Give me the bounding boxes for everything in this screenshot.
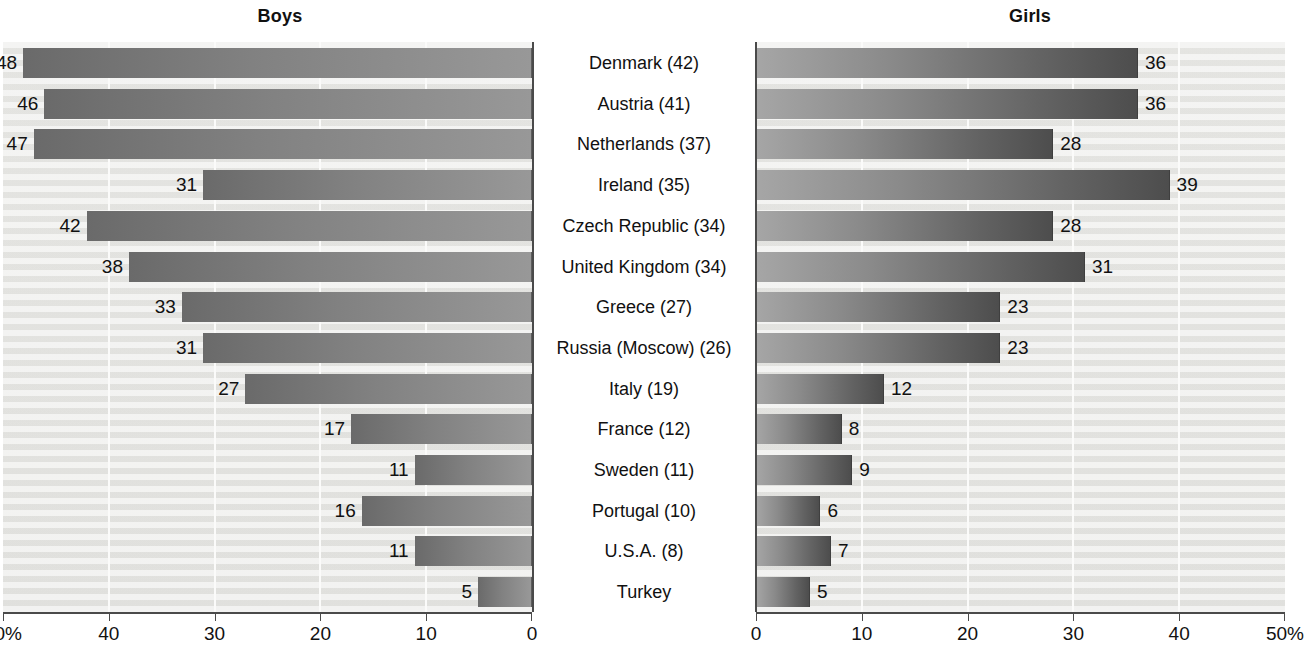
girls-tick-label-30: 30 <box>1063 623 1084 645</box>
category-label: France (12) <box>540 414 748 444</box>
girls-bar-value-label: 9 <box>859 455 870 485</box>
girls-tick-30 <box>1073 612 1074 621</box>
boys-plot-background <box>3 42 532 612</box>
category-label: Denmark (42) <box>540 48 748 78</box>
girls-bar <box>756 414 842 444</box>
boys-tick-label-0: 0 <box>527 623 538 645</box>
boys-bar <box>415 536 532 566</box>
boys-bar <box>415 455 532 485</box>
girls-bar-value-label: 6 <box>827 496 838 526</box>
category-label: Greece (27) <box>540 292 748 322</box>
girls-value-axis-line <box>755 42 757 612</box>
girls-bar <box>756 129 1053 159</box>
boys-bar <box>34 129 532 159</box>
category-label: Portugal (10) <box>540 496 748 526</box>
boys-tick-20 <box>320 612 321 621</box>
boys-tick-50 <box>3 612 4 621</box>
boys-bar-value-label: 42 <box>60 211 81 241</box>
category-label: Czech Republic (34) <box>540 211 748 241</box>
boys-bar <box>129 252 532 282</box>
girls-bar-value-label: 36 <box>1145 89 1166 119</box>
girls-bar-value-label: 31 <box>1092 252 1113 282</box>
girls-tick-label-40: 40 <box>1169 623 1190 645</box>
girls-bar <box>756 374 884 404</box>
boys-x-axis: 01020304050% <box>3 612 532 660</box>
boys-bar <box>44 89 532 119</box>
girls-tick-50 <box>1284 612 1285 621</box>
boys-panel-title: Boys <box>180 6 380 27</box>
boys-gridline-10 <box>425 42 427 612</box>
girls-bar-value-label: 39 <box>1177 170 1198 200</box>
girls-tick-label-0: 0 <box>751 623 762 645</box>
boys-bar-value-label: 27 <box>218 374 239 404</box>
girls-bar <box>756 292 1000 322</box>
category-label: Russia (Moscow) (26) <box>540 333 748 363</box>
boys-bar <box>478 577 532 607</box>
girls-bar-value-label: 7 <box>838 536 849 566</box>
boys-bar-value-label: 11 <box>389 455 409 485</box>
girls-bar <box>756 333 1000 363</box>
category-label: Italy (19) <box>540 374 748 404</box>
girls-tick-20 <box>968 612 969 621</box>
girls-bar-value-label: 28 <box>1060 129 1081 159</box>
boys-gridline-40 <box>108 42 110 612</box>
boys-gridline-20 <box>319 42 321 612</box>
boys-tick-label-50: 50% <box>0 623 22 645</box>
boys-value-axis-line <box>532 42 534 612</box>
boys-gridline-30 <box>214 42 216 612</box>
girls-gridline-20 <box>967 42 969 612</box>
girls-bar-value-label: 23 <box>1007 292 1028 322</box>
boys-bar <box>203 170 532 200</box>
girls-tick-40 <box>1179 612 1180 621</box>
boys-bar-value-label: 16 <box>335 496 356 526</box>
boys-bar-value-label: 5 <box>462 577 473 607</box>
boys-bar-value-label: 33 <box>155 292 176 322</box>
girls-x-axis: 01020304050% <box>756 612 1285 660</box>
girls-tick-0 <box>756 612 757 621</box>
girls-bar <box>756 89 1138 119</box>
category-label-column: Denmark (42)Austria (41)Netherlands (37)… <box>540 42 748 612</box>
boys-bar <box>351 414 532 444</box>
boys-bar-value-label: 11 <box>389 536 409 566</box>
boys-bar <box>87 211 532 241</box>
boys-tick-40 <box>109 612 110 621</box>
boys-tick-10 <box>426 612 427 621</box>
boys-bar <box>362 496 532 526</box>
category-label: U.S.A. (8) <box>540 536 748 566</box>
girls-bar-value-label: 5 <box>817 577 828 607</box>
girls-gridline-10 <box>861 42 863 612</box>
boys-bar-value-label: 46 <box>17 89 38 119</box>
boys-bar-value-label: 47 <box>7 129 28 159</box>
boys-tick-label-40: 40 <box>98 623 119 645</box>
girls-bar-value-label: 12 <box>891 374 912 404</box>
category-label: United Kingdom (34) <box>540 252 748 282</box>
girls-bar <box>756 170 1170 200</box>
girls-bar-value-label: 36 <box>1145 48 1166 78</box>
boys-tick-label-20: 20 <box>310 623 331 645</box>
boys-tick-0 <box>531 612 532 621</box>
girls-panel-title: Girls <box>930 6 1130 27</box>
boys-tick-label-30: 30 <box>204 623 225 645</box>
boys-tick-30 <box>215 612 216 621</box>
category-label: Ireland (35) <box>540 170 748 200</box>
boys-bar-value-label: 31 <box>176 333 197 363</box>
boys-bar <box>245 374 532 404</box>
girls-plot-area: 36362839283123231289675 <box>756 42 1285 612</box>
boys-plot-area: 484647314238333127171116115 <box>3 42 532 612</box>
girls-plot-background <box>756 42 1285 612</box>
category-label: Sweden (11) <box>540 455 748 485</box>
boys-bar <box>182 292 532 322</box>
boys-bar <box>23 48 532 78</box>
figure-root: Boys Girls 484647314238333127171116115 D… <box>0 0 1304 660</box>
girls-tick-label-20: 20 <box>957 623 978 645</box>
boys-tick-label-10: 10 <box>416 623 437 645</box>
girls-bar <box>756 536 831 566</box>
girls-axis-rule <box>756 612 1285 614</box>
boys-bar-value-label: 48 <box>0 48 17 78</box>
boys-axis-rule <box>3 612 532 614</box>
girls-bar <box>756 496 820 526</box>
girls-bar-value-label: 23 <box>1007 333 1028 363</box>
girls-gridline-40 <box>1178 42 1180 612</box>
girls-bar-value-label: 28 <box>1060 211 1081 241</box>
girls-tick-10 <box>862 612 863 621</box>
